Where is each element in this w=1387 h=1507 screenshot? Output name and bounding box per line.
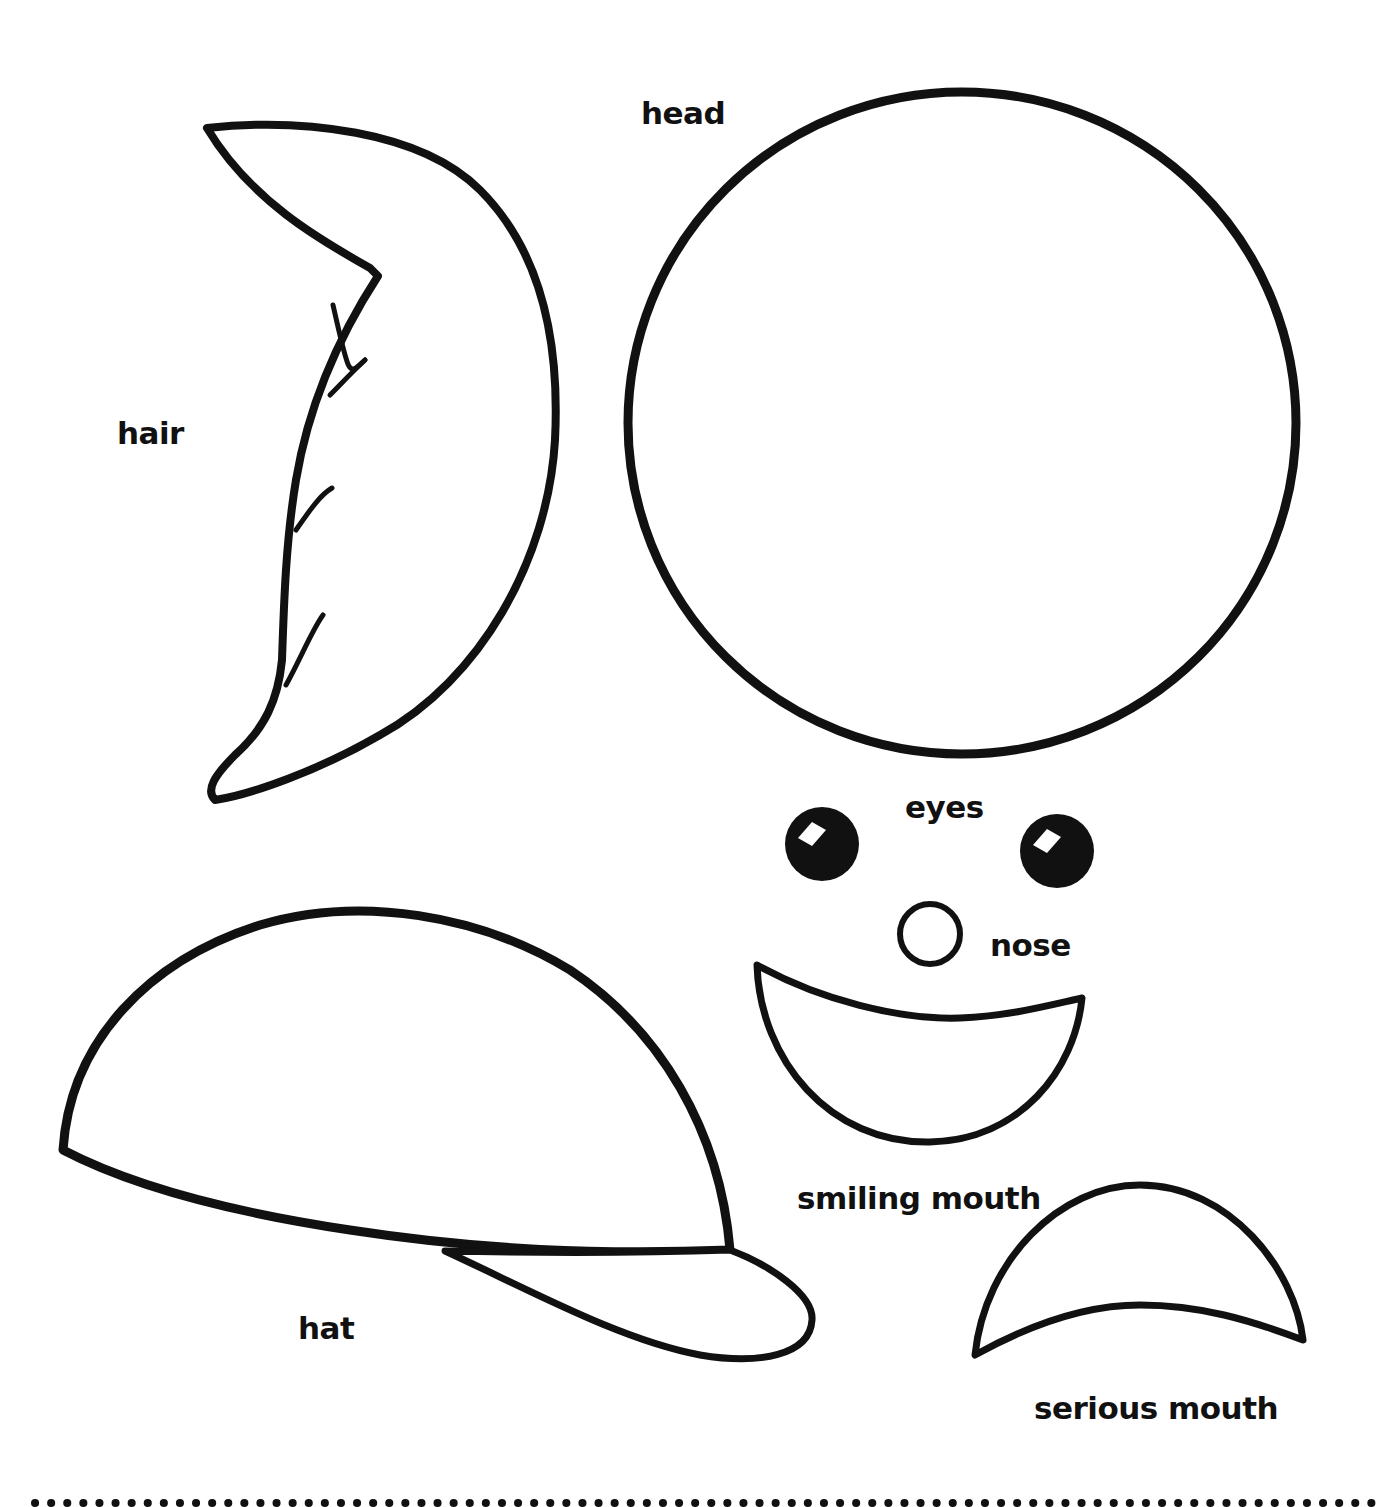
head-label: head [641,98,725,129]
smiling-mouth-shape [757,965,1082,1142]
nose-label: nose [990,930,1071,961]
nose-shape [900,904,960,964]
head-shape [628,92,1296,754]
cutout-shapes [0,0,1387,1507]
hair-shape [207,125,556,800]
hat-shape [63,911,812,1359]
hat-label: hat [298,1313,354,1344]
eyes-label: eyes [905,792,984,823]
left-eye [785,807,859,881]
right-eye [1020,814,1094,888]
serious-mouth-label: serious mouth [1034,1393,1278,1424]
hair-label: hair [117,418,184,449]
cutout-sheet: head hair eyes nose smiling mouth hat se… [0,0,1387,1507]
smiling-mouth-label: smiling mouth [797,1183,1041,1214]
